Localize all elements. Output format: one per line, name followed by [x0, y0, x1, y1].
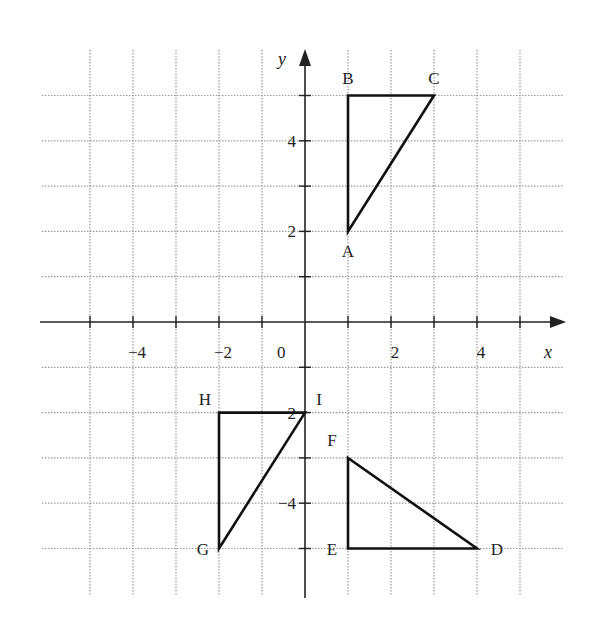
- triangle-ABC: ABC: [342, 69, 440, 262]
- vertex-label-I: I: [316, 390, 322, 409]
- origin-label: 0: [277, 343, 286, 362]
- vertex-label-G: G: [197, 540, 209, 559]
- x-tick-label: 2: [391, 343, 400, 362]
- triangle-GHI: GHI: [197, 390, 322, 559]
- y-tick-label: −4: [278, 494, 297, 513]
- vertex-label-A: A: [342, 242, 355, 261]
- axes: x y 0 −4−22442−2−4: [40, 49, 566, 598]
- x-tick-label: −2: [214, 343, 232, 362]
- coordinate-plane: x y 0 −4−22442−2−4 ABCDEFGHI: [0, 0, 593, 625]
- vertex-label-E: E: [327, 540, 337, 559]
- triangle-ABC-outline: [348, 96, 434, 232]
- x-tick-label: −4: [128, 343, 147, 362]
- vertex-label-H: H: [199, 390, 211, 409]
- y-tick-label: 4: [288, 132, 297, 151]
- vertex-label-D: D: [491, 540, 503, 559]
- vertex-label-B: B: [342, 69, 353, 88]
- x-tick-label: 4: [477, 343, 486, 362]
- y-axis-label: y: [276, 49, 286, 69]
- y-axis-arrow-icon: [299, 49, 311, 66]
- y-tick-label: 2: [288, 222, 297, 241]
- x-axis-arrow-icon: [550, 316, 566, 328]
- vertex-label-C: C: [428, 69, 439, 88]
- triangles: ABCDEFGHI: [197, 69, 503, 559]
- vertex-label-F: F: [327, 431, 336, 450]
- coordinate-diagram: x y 0 −4−22442−2−4 ABCDEFGHI: [0, 0, 593, 625]
- x-axis-label: x: [543, 342, 552, 362]
